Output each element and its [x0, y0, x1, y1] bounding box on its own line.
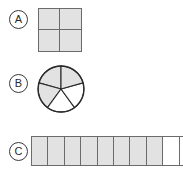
shape-square-a	[38, 8, 82, 52]
square-part	[39, 9, 60, 30]
shape-strip-c	[31, 136, 183, 166]
strip-part	[48, 137, 64, 165]
strip-part	[147, 137, 163, 165]
strip-part	[130, 137, 146, 165]
strip-part	[180, 137, 183, 165]
worksheet-item-a: A	[0, 0, 183, 60]
square-part	[60, 30, 81, 51]
worksheet-item-c: C	[0, 122, 183, 182]
strip-part	[163, 137, 179, 165]
item-label-c: C	[9, 142, 28, 161]
item-label-a: A	[9, 10, 28, 29]
strip-part	[65, 137, 81, 165]
worksheet-item-b: B	[0, 60, 183, 122]
strip-part	[114, 137, 130, 165]
shape-circle-b	[36, 64, 86, 114]
strip-part	[81, 137, 97, 165]
fraction-worksheet: A B C	[0, 0, 183, 182]
square-part	[39, 30, 60, 51]
strip-part	[32, 137, 48, 165]
item-label-b: B	[9, 74, 28, 93]
square-part	[60, 9, 81, 30]
strip-part	[98, 137, 114, 165]
